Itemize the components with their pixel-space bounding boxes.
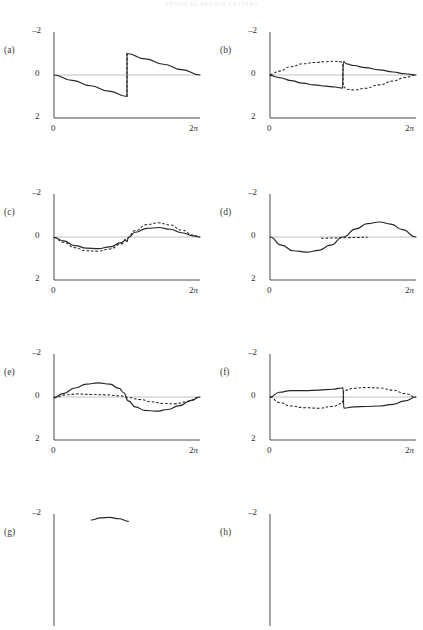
y-tick-mid-e: 0 [35, 390, 40, 400]
plot-svg-g [44, 508, 202, 626]
plot-area-e: –20202π [44, 348, 202, 466]
y-tick-bottom-d: 2 [251, 273, 256, 283]
panel-e: (e)–20202π [0, 340, 205, 490]
y-tick-top-f: –2 [248, 347, 257, 357]
plot-area-c: –20202π [44, 188, 202, 306]
y-tick-bottom-c: 2 [35, 273, 40, 283]
panel-d: (d)–20202π [216, 180, 421, 330]
plot-svg-d [260, 188, 418, 306]
y-tick-mid-f: 0 [251, 390, 256, 400]
plot-area-g: –2 [44, 508, 202, 626]
panel-c: (c)–20202π [0, 180, 205, 330]
y-tick-top-e: –2 [32, 347, 41, 357]
plot-area-f: –20202π [260, 348, 418, 466]
panel-label-f: (f) [220, 367, 230, 377]
panel-label-d: (d) [220, 207, 231, 217]
curve-c-solid [54, 228, 200, 249]
y-tick-mid-a: 0 [35, 68, 40, 78]
plot-svg-c [44, 188, 202, 306]
panel-label-e: (e) [4, 367, 15, 377]
y-tick-top-g: –2 [32, 507, 41, 517]
y-tick-bottom-a: 2 [35, 111, 40, 121]
plot-area-h: –2 [260, 508, 418, 626]
panel-label-b: (b) [220, 45, 231, 55]
y-tick-bottom-b: 2 [251, 111, 256, 121]
panel-label-h: (h) [220, 527, 231, 537]
y-tick-top-a: –2 [32, 25, 41, 35]
plot-area-a: –20202π [44, 26, 202, 144]
y-tick-bottom-f: 2 [251, 433, 256, 443]
panel-label-c: (c) [4, 207, 15, 217]
panel-a: (a)–20202π [0, 18, 205, 168]
panel-h: (h)–2 [216, 500, 421, 630]
plot-svg-h [260, 508, 418, 626]
plot-area-d: –20202π [260, 188, 418, 306]
plot-svg-a [44, 26, 202, 144]
plot-svg-f [260, 348, 418, 466]
plot-svg-e [44, 348, 202, 466]
y-tick-bottom-e: 2 [35, 433, 40, 443]
y-tick-mid-c: 0 [35, 230, 40, 240]
panel-b: (b)–20202π [216, 18, 421, 168]
plot-area-b: –20202π [260, 26, 418, 144]
panel-f: (f)–20202π [216, 340, 421, 490]
panel-label-g: (g) [4, 527, 15, 537]
curve-g-solid-partial [91, 517, 128, 521]
running-head: PHYSICAL REVIEW LETTERS [0, 0, 423, 9]
y-tick-mid-d: 0 [251, 230, 256, 240]
y-tick-top-h: –2 [248, 507, 257, 517]
y-tick-top-b: –2 [248, 25, 257, 35]
panel-label-a: (a) [4, 45, 15, 55]
y-tick-top-c: –2 [32, 187, 41, 197]
plot-svg-b [260, 26, 418, 144]
panel-g: (g)–2 [0, 500, 205, 630]
y-tick-mid-b: 0 [251, 68, 256, 78]
y-tick-top-d: –2 [248, 187, 257, 197]
